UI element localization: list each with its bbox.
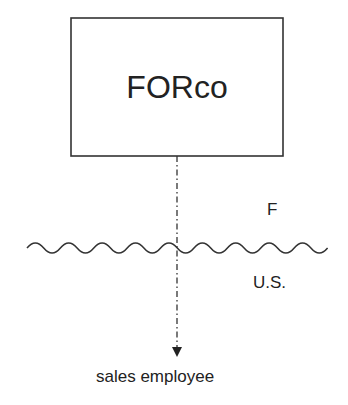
country-f-label: F	[267, 200, 277, 220]
arrow-head-icon	[172, 347, 182, 357]
country-us-label: U.S.	[253, 273, 286, 293]
company-label: FORco	[71, 18, 283, 156]
sales-employee-label: sales employee	[96, 367, 214, 387]
